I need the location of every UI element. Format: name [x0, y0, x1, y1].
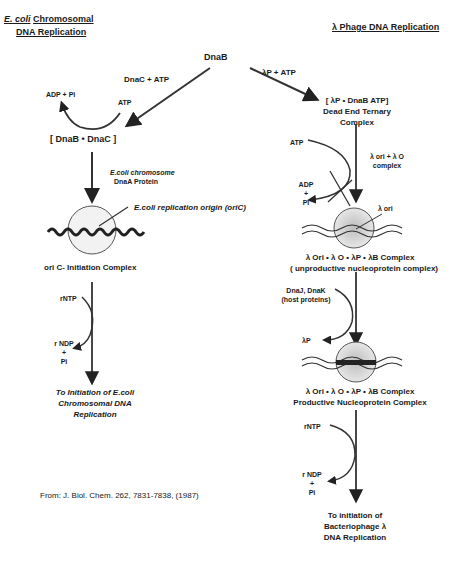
rntp-label-right: rNTP	[304, 422, 321, 431]
dnac-atp-label: DnaC + ATP	[124, 75, 169, 84]
citation: From: J. Biol. Chem. 262, 7831-7838, (19…	[40, 490, 199, 501]
atp-label-right: ATP	[290, 138, 303, 147]
dnab-dnac-complex: [ DnaB • DnaC ]	[50, 134, 116, 145]
lambdap-label: λP	[302, 336, 311, 345]
adp-pi-label-left: ADP + Pi	[46, 90, 75, 99]
arrow-rntp-to-rndp-left	[75, 297, 93, 348]
unproductive-complex-label: λ Ori • λ O • λP • λB Complex ( unproduc…	[290, 252, 430, 274]
lambdap-atp-label: λP + ATP	[262, 68, 296, 77]
rntp-label-left: rNTP	[60, 294, 77, 303]
lori-lo-complex-label: λ ori + λ O complex	[360, 152, 414, 170]
oric-complex-graphic	[48, 206, 144, 254]
adp-pi-label-right: ADP + Pi	[296, 180, 316, 207]
arrow-atp-to-adp-left	[62, 104, 120, 129]
dnab-label: DnaB	[204, 52, 228, 63]
unproductive-complex-graphic	[302, 208, 402, 248]
productive-complex-graphic	[302, 342, 402, 382]
productive-complex-label: λ Ori • λ O • λP • λB Complex Productive…	[280, 386, 440, 408]
right-header: λ Phage DNA Replication	[332, 22, 439, 33]
oric-label: E.coli replication origin (oriC)	[134, 203, 246, 212]
blocked-cross-icon	[328, 171, 352, 206]
arrow-rntp-to-rndp-right	[330, 425, 355, 481]
ternary-complex-label: [ λP • DnaB ATP] Dead End Ternary Comple…	[302, 95, 412, 128]
left-header: E. coli Chromosomal	[4, 14, 94, 25]
ecoli-initiation-label: To Initiation of E.coli Chromosomal DNA …	[40, 387, 150, 420]
dnaj-dnak-label: DnaJ, DnaK (host proteins)	[276, 286, 336, 304]
rndp-label-right: r NDP + Pi	[300, 470, 324, 497]
diagram-artwork	[0, 0, 454, 566]
lambda-ori-label: λ ori	[378, 204, 393, 213]
phage-initiation-label: To initiation of Bacteriophage λ DNA Rep…	[310, 510, 400, 543]
dnaa-label-line1: E.coli chromosome	[110, 168, 175, 177]
rndp-label-left: r NDP + Pi	[52, 339, 76, 366]
atp-label-left: ATP	[118, 98, 131, 107]
oric-initiation-complex-label: ori C- Initiation Complex	[44, 262, 136, 273]
left-header-line2: DNA Replication	[16, 27, 86, 38]
dnaa-label-line2: DnaA Protein	[114, 177, 158, 186]
